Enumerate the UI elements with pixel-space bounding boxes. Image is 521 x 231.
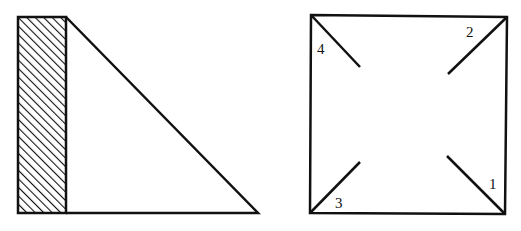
right-triangle: [66, 17, 258, 213]
segment-label-1: 1: [489, 176, 497, 192]
hatched-wall: [18, 17, 66, 213]
segment-label-4: 4: [317, 41, 325, 57]
diagonal-segment-2: [448, 17, 507, 74]
right-figure: 1 2 3 4: [310, 15, 507, 214]
segment-label-2: 2: [466, 24, 474, 40]
left-figure: [18, 17, 258, 213]
segment-label-3: 3: [335, 195, 343, 211]
diagram-canvas: 1 2 3 4: [0, 0, 521, 231]
